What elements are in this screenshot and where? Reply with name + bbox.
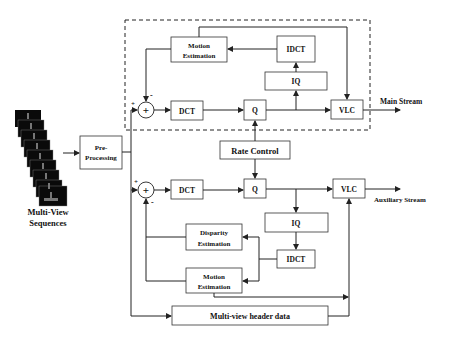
main-idct-label: IDCT bbox=[287, 45, 306, 54]
pre-processing-line1: Pre- bbox=[95, 144, 108, 152]
disparity-estimation-line2: Estimation bbox=[198, 240, 231, 248]
multi-view-frames-icon bbox=[15, 110, 67, 206]
aux-idct-label: IDCT bbox=[287, 255, 306, 264]
aux-minus-sign: - bbox=[151, 198, 154, 207]
auxiliary-stream-label: Auxiliary Stream bbox=[374, 196, 426, 204]
header-data-label: Multi-view header data bbox=[210, 312, 290, 321]
aux-q-label: Q bbox=[252, 185, 258, 194]
aux-motion-estimation-line1: Motion bbox=[203, 273, 225, 281]
main-q-label: Q bbox=[252, 106, 258, 115]
rate-control-label: Rate Control bbox=[231, 146, 279, 156]
aux-plus-sign: + bbox=[134, 178, 138, 186]
main-sum-symbol: + bbox=[143, 104, 149, 116]
main-motion-estimation-line2: Estimation bbox=[183, 52, 216, 60]
aux-vlc-label: VLC bbox=[341, 185, 357, 194]
aux-dct-label: DCT bbox=[179, 186, 195, 195]
main-plus-sign: + bbox=[131, 100, 135, 108]
aux-iq-label: IQ bbox=[292, 219, 301, 228]
main-motion-estimation-line1: Motion bbox=[188, 42, 210, 50]
input-label-line2: Sequences bbox=[29, 218, 67, 228]
main-iq-label: IQ bbox=[292, 77, 301, 86]
encoder-diagram: Multi-View Sequences Pre- Processing Mot… bbox=[0, 0, 450, 340]
aux-motion-estimation-line2: Estimation bbox=[198, 283, 231, 291]
pre-processing-block bbox=[80, 136, 122, 169]
input-label-line1: Multi-View bbox=[27, 207, 69, 217]
disparity-estimation-line1: Disparity bbox=[200, 229, 229, 237]
pre-processing-line2: Processing bbox=[85, 154, 117, 162]
main-stream-label: Main Stream bbox=[380, 97, 423, 106]
aux-sum-symbol: + bbox=[143, 184, 149, 196]
main-minus-sign: - bbox=[150, 91, 153, 100]
main-vlc-label: VLC bbox=[339, 106, 355, 115]
main-dct-label: DCT bbox=[179, 107, 195, 116]
